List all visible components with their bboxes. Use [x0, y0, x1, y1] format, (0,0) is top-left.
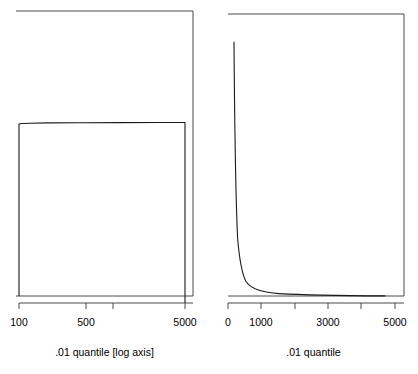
right-tick-label-5000: 5000: [375, 317, 415, 328]
right-plot-canvas: [209, 0, 418, 310]
right-panel-linear-axis: 0 1000 3000 5000 .01 quantile: [209, 0, 418, 374]
left-tick-label-500: 500: [66, 317, 106, 328]
right-tick-label-1000: 1000: [241, 317, 281, 328]
right-tick-label-3000: 3000: [308, 317, 348, 328]
left-plot-frame: [16, 11, 193, 296]
left-tick-label-100: 100: [0, 317, 39, 328]
left-density-curve: [19, 123, 185, 304]
right-axis-title: .01 quantile: [209, 346, 418, 358]
right-density-curve: [234, 42, 385, 296]
left-panel-log-axis: 100 500 5000 .01 quantile [log axis]: [0, 0, 209, 374]
left-axis-title: .01 quantile [log axis]: [0, 346, 209, 358]
right-plot-frame: [228, 14, 404, 296]
left-plot-canvas: [0, 0, 209, 310]
left-tick-label-5000: 5000: [165, 317, 205, 328]
